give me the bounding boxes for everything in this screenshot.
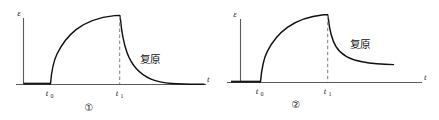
chart-1-panel-number: ① [85, 102, 94, 113]
chart-panel-2: ε t t 0 t 1 复原 ② [219, 0, 439, 120]
chart-1-tick-t1-sub: 1 [121, 93, 124, 99]
chart-2-tick-t1: t 1 [324, 86, 332, 97]
chart-1-recovery-annotation: 复原 [140, 53, 160, 65]
chart-panel-1: ε t t 0 t 1 复原 ① [0, 0, 219, 120]
chart-2-tick-t0-sub: 0 [261, 91, 264, 97]
chart-1-tick-t0: t 0 [46, 88, 54, 99]
chart-2-svg: ε t t 0 t 1 复原 ② [219, 0, 439, 120]
figure-root: ε t t 0 t 1 复原 ① [0, 0, 439, 120]
chart-1-strain-curve [51, 15, 205, 84]
chart-1-svg: ε t t 0 t 1 复原 ① [0, 0, 219, 120]
chart-2-y-axis-label: ε [233, 9, 237, 19]
chart-2-x-axis-label: t [424, 72, 427, 82]
chart-1-x-axis-label: t [207, 74, 210, 84]
chart-1-tick-t1: t 1 [116, 88, 124, 99]
chart-2-panel-number: ② [292, 99, 301, 110]
chart-2-tick-t0-base: t [256, 86, 259, 96]
chart-1-y-axis-label: ε [17, 8, 21, 18]
chart-2-tick-t1-sub: 1 [329, 91, 332, 97]
chart-1-tick-t0-sub: 0 [51, 93, 54, 99]
chart-1-tick-t0-base: t [46, 88, 49, 98]
chart-2-recovery-annotation: 复原 [350, 38, 370, 50]
chart-2-tick-t0: t 0 [256, 86, 264, 97]
chart-1-tick-t1-base: t [116, 88, 119, 98]
chart-2-tick-t1-base: t [324, 86, 327, 96]
